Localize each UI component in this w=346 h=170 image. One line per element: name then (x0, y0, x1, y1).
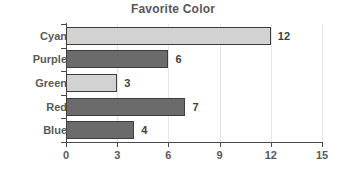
favorite-color-bar-chart: Favorite Color 126374 CyanPurpleGreenRed… (0, 0, 346, 170)
x-tick-3 (117, 143, 118, 147)
y-tick-2 (61, 71, 67, 72)
y-tick-3 (61, 95, 67, 96)
category-label-cyan: Cyan (40, 30, 67, 42)
x-axis-line (66, 142, 323, 143)
bar-value-cyan: 12 (278, 30, 290, 42)
y-tick-1 (61, 48, 67, 49)
chart-title: Favorite Color (0, 2, 346, 16)
bar-red[interactable] (66, 98, 185, 116)
x-tick-0 (66, 143, 67, 147)
bar-value-green: 3 (124, 77, 130, 89)
x-tick-label-9: 9 (217, 149, 223, 161)
x-tick-label-3: 3 (114, 149, 120, 161)
bar-blue[interactable] (66, 121, 134, 139)
bar-cyan[interactable] (66, 27, 271, 45)
x-tick-label-0: 0 (63, 149, 69, 161)
x-tick-15 (322, 143, 323, 147)
y-tick-0 (61, 24, 67, 25)
x-tick-label-6: 6 (165, 149, 171, 161)
category-label-green: Green (35, 77, 67, 89)
category-label-red: Red (46, 101, 67, 113)
category-label-purple: Purple (33, 53, 67, 65)
x-tick-9 (220, 143, 221, 147)
bar-green[interactable] (66, 74, 117, 92)
x-tick-6 (168, 143, 169, 147)
x-tick-label-15: 15 (316, 149, 328, 161)
bar-value-purple: 6 (175, 53, 181, 65)
bar-purple[interactable] (66, 50, 168, 68)
x-tick-12 (271, 143, 272, 147)
bar-value-red: 7 (192, 101, 198, 113)
category-label-blue: Blue (43, 124, 67, 136)
bar-value-blue: 4 (141, 124, 147, 136)
y-tick-4 (61, 118, 67, 119)
x-tick-label-12: 12 (265, 149, 277, 161)
